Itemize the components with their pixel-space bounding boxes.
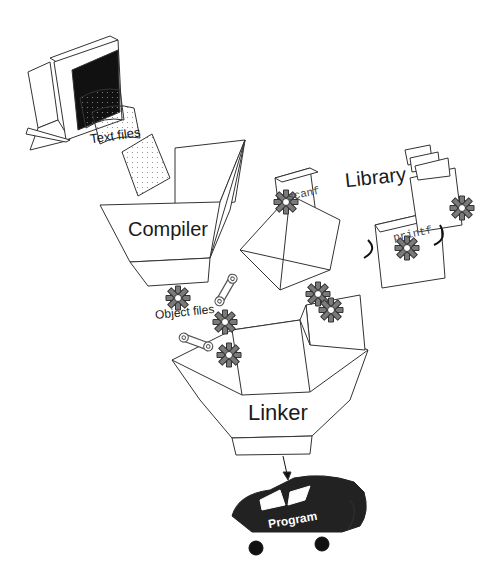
diagram-canvas xyxy=(0,0,492,577)
compiler-hopper xyxy=(100,140,245,286)
link-icon xyxy=(213,273,238,308)
arrow-icon xyxy=(283,472,291,480)
compiler-label: Compiler xyxy=(128,218,208,241)
gear-icon xyxy=(217,343,241,367)
linker-label: Linker xyxy=(248,400,308,426)
library-boxes xyxy=(240,145,462,290)
gear-icon xyxy=(213,310,237,334)
gear-icon xyxy=(450,196,474,220)
gear-icon xyxy=(319,298,343,322)
